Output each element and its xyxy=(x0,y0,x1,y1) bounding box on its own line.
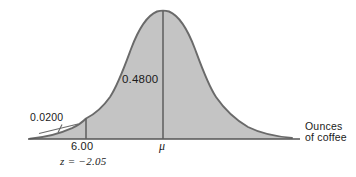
distribution-curve-graphic xyxy=(0,0,356,177)
x-axis-title-line2: of coffee xyxy=(305,132,347,143)
x-axis-tick-label-boundary: 6.00 xyxy=(71,141,93,153)
shaded-area-under-curve xyxy=(86,11,292,139)
normal-distribution-figure: 0.4800 0.0200 6.00 μ z = −2.05 Ounces of… xyxy=(0,0,356,177)
x-axis-tick-label-mean: μ xyxy=(159,140,165,153)
area-label-main: 0.4800 xyxy=(122,73,158,85)
x-axis-title: Ounces of coffee xyxy=(305,121,347,144)
z-score-label: z = −2.05 xyxy=(60,156,107,168)
area-label-tail: 0.0200 xyxy=(30,112,63,123)
x-axis-title-line1: Ounces xyxy=(305,120,342,132)
